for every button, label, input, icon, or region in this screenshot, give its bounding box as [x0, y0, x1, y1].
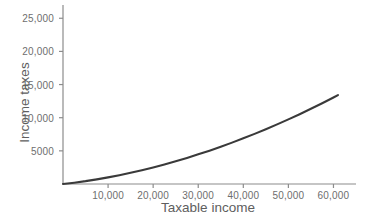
income-tax-curve	[63, 95, 338, 184]
income-tax-chart: 500010,00015,00020,00025,000 10,00020,00…	[0, 0, 368, 221]
x-axis-title: Taxable income	[63, 200, 353, 215]
x-axis-ticks	[108, 184, 333, 188]
plot-area	[0, 0, 368, 221]
y-tick-label: 25,000	[0, 13, 54, 24]
axes	[63, 5, 356, 184]
y-axis-title: Income taxes	[17, 33, 32, 173]
